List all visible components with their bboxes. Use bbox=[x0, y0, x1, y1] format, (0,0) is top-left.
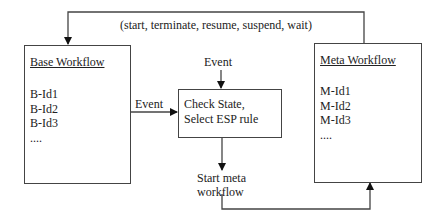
list-item: B-Id1 bbox=[30, 87, 58, 102]
event-top-label: Event bbox=[204, 55, 232, 69]
start-meta-line1: Start meta bbox=[197, 171, 246, 185]
control-commands-label: (start, terminate, resume, suspend, wait… bbox=[120, 18, 312, 32]
base-workflow-title: Base Workflow bbox=[30, 55, 104, 69]
list-item: .... bbox=[320, 128, 351, 143]
check-state-box: Check State, Select ESP rule bbox=[178, 89, 282, 138]
start-meta-line2: workflow bbox=[197, 185, 244, 199]
base-workflow-list: B-Id1 B-Id2 B-Id3 .... bbox=[30, 87, 58, 145]
base-workflow-box: Base Workflow B-Id1 B-Id2 B-Id3 .... bbox=[24, 45, 131, 184]
list-item: .... bbox=[30, 131, 58, 146]
check-state-line2: Select ESP rule bbox=[184, 112, 258, 126]
start-to-meta-arrow bbox=[222, 183, 370, 209]
check-state-line1: Check State, bbox=[184, 97, 245, 111]
meta-workflow-box: Meta Workflow M-Id1 M-Id2 M-Id3 .... bbox=[314, 43, 422, 183]
list-item: M-Id1 bbox=[320, 84, 351, 99]
event-left-label: Event bbox=[135, 97, 163, 111]
list-item: M-Id3 bbox=[320, 113, 351, 128]
meta-workflow-list: M-Id1 M-Id2 M-Id3 .... bbox=[320, 84, 351, 142]
meta-workflow-title: Meta Workflow bbox=[320, 53, 396, 67]
list-item: B-Id2 bbox=[30, 102, 58, 117]
list-item: M-Id2 bbox=[320, 99, 351, 114]
list-item: B-Id3 bbox=[30, 116, 58, 131]
